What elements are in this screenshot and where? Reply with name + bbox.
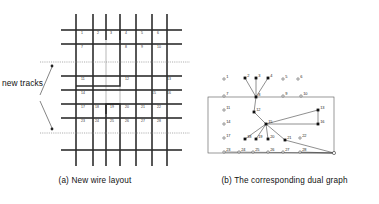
wire-layout-svg: 1234567891011121314151617181920212223242…	[0, 0, 190, 176]
grid-cell-number: 6	[157, 31, 159, 35]
dual-graph-node-filled	[255, 138, 258, 141]
dual-graph-node-label: 25	[255, 147, 259, 152]
dual-graph-node-hollow	[299, 137, 301, 139]
dual-graph-node-label: 17	[226, 133, 230, 138]
grid-cell-number: 1	[81, 31, 83, 35]
dual-graph-node-label: 21	[287, 135, 291, 140]
panel-dual-graph: 1234567891011121314151617181920212223242…	[190, 0, 379, 204]
new-tracks-leader-lines	[40, 67, 52, 128]
dual-graph-node-hollow	[238, 151, 240, 153]
dual-graph-node-hollow	[223, 123, 225, 125]
dual-graph-node-hollow	[299, 151, 301, 153]
grid-cell-number: 21	[141, 105, 145, 109]
dual-graph-node-label: 15	[268, 119, 272, 124]
dual-graph-node-label: 19	[258, 134, 262, 139]
dual-graph-node-label: 10	[303, 91, 308, 96]
grid-cell-number: 22	[157, 105, 161, 109]
grid-cell-number: 25	[110, 119, 114, 123]
grid-cell-number: 28	[157, 119, 161, 123]
dual-graph-node-filled	[255, 77, 258, 80]
grid-cell-number: 10	[157, 45, 161, 49]
grid-cell-number: 14	[81, 91, 85, 95]
grid-cell-number: 12	[125, 77, 129, 81]
grid-cell-number: 27	[141, 119, 145, 123]
dual-graph-node-filled	[317, 109, 320, 112]
dual-graph-node-label: 20	[270, 134, 275, 139]
grid-cell-number: 8	[125, 45, 127, 49]
grid-cell-number: 4	[125, 31, 127, 35]
grid-cell-number: 18	[95, 105, 99, 109]
dual-graph-node-hollow	[282, 78, 284, 80]
dual-graph-node-label: 11	[226, 105, 230, 110]
grid-cell-number: 9	[141, 45, 143, 49]
dual-graph-node-filled	[244, 138, 247, 141]
grid-cell-number: 16	[167, 91, 171, 95]
dual-graph-node-hollow	[223, 95, 225, 97]
dual-graph-node-label: 4	[270, 73, 273, 78]
dual-graph-node-label: 9	[285, 91, 287, 96]
dual-graph-node-label: 24	[241, 147, 246, 152]
new-tracks-arrow-dots	[51, 65, 54, 131]
dual-graph-node-label: 1	[226, 74, 228, 79]
dual-graph-node-label: 23	[226, 147, 230, 152]
grid-cell-number: 24	[95, 119, 99, 123]
grid-cell-number: 20	[125, 105, 129, 109]
figure-container: new tracks	[0, 0, 379, 204]
dual-graph-node-filled	[267, 77, 270, 80]
dual-graph-node-hollow	[282, 95, 284, 97]
dual-graph-node-label: 16	[320, 119, 324, 124]
caption-panel-a: (a) New wire layout	[0, 176, 190, 185]
grid-cell-number: 7	[81, 45, 83, 49]
grid-cell-number: 15	[152, 91, 156, 95]
grid-cell-number: 2	[97, 31, 99, 35]
dual-graph-node-label: 13	[320, 105, 324, 110]
grid-cell-number: 26	[125, 119, 129, 123]
dual-graph-node-filled	[255, 96, 258, 99]
dual-graph-edge	[266, 110, 318, 124]
dual-graph-node-hollow	[297, 78, 299, 80]
dual-graph-node-label: 7	[226, 91, 228, 96]
dual-graph-node-hollow	[223, 109, 225, 111]
grid-cell-number: 13	[167, 77, 171, 81]
dual-graph-node-label: 2	[247, 73, 249, 78]
dual-graph-node-hollow	[223, 137, 225, 139]
grid-cell-number: 23	[81, 119, 85, 123]
dual-graph-node-label: 22	[302, 133, 306, 138]
dual-graph-node-hollow	[223, 151, 225, 153]
dual-graph-edge	[285, 140, 334, 153]
grid-cell-number: 19	[110, 105, 114, 109]
outer-face-node	[332, 151, 335, 154]
dual-graph-node-filled	[244, 77, 247, 80]
dual-graph-node-label: 18	[247, 134, 251, 139]
dual-graph-node-hollow	[252, 151, 254, 153]
dual-graph-edges	[224, 78, 334, 153]
dual-graph-node-filled	[317, 123, 320, 126]
dual-graph-node-label: 27	[285, 147, 289, 152]
dual-graph-node-label: 8	[258, 92, 260, 97]
dual-graph-edge	[266, 124, 268, 139]
dual-graph-node-hollow	[300, 95, 302, 97]
dual-graph-node-hollow	[282, 151, 284, 153]
dual-graph-node-label: 5	[285, 74, 287, 79]
caption-panel-b: (b) The corresponding dual graph	[190, 176, 379, 185]
dual-graph-edge	[254, 112, 266, 124]
dual-graph-node-labels: 1234567891011121314151617181920212223242…	[226, 73, 324, 152]
grid-cell-number: 5	[141, 31, 143, 35]
dual-graph-node-filled	[265, 123, 268, 126]
dual-graph-node-label: 12	[256, 107, 260, 112]
grid-cell-number: 3	[110, 31, 112, 35]
dual-graph-nodes	[223, 77, 320, 154]
routed-wire-lower	[106, 104, 120, 166]
grid-cell-number: 17	[81, 105, 85, 109]
dual-graph-svg: 1234567891011121314151617181920212223242…	[190, 0, 379, 176]
dual-graph-node-label: 28	[302, 147, 306, 152]
dual-graph-node-filled	[253, 111, 256, 114]
grid-cell-number: 11	[81, 77, 85, 81]
dual-graph-node-filled	[284, 139, 287, 142]
dual-graph-node-label: 3	[258, 73, 260, 78]
dual-graph-node-label: 6	[300, 74, 302, 79]
grid-wires-horizontal	[61, 30, 182, 150]
dual-graph-edge	[245, 78, 256, 97]
grid-cell-numbers: 1234567891011121314151617181920212223242…	[81, 31, 171, 123]
dual-graph-node-filled	[267, 138, 270, 141]
